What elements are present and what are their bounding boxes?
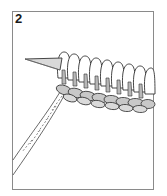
knitting-needle <box>25 58 62 70</box>
yarn-strand <box>13 92 66 175</box>
knitting-illustration <box>0 0 167 196</box>
